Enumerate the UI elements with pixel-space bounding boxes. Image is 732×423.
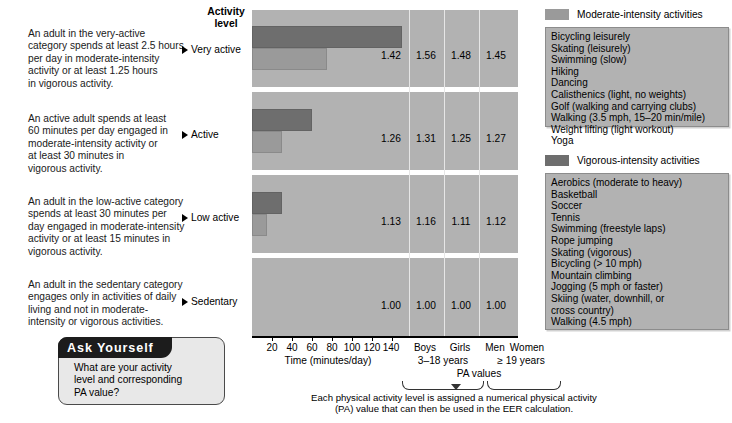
x-axis-tick (352, 337, 353, 341)
pa-value: 1.45 (479, 50, 513, 61)
legend-header-vigorous: Vigorous-intensity activities (545, 155, 700, 166)
triangle-marker-icon (182, 46, 188, 54)
pa-value: 1.00 (444, 300, 478, 311)
description-low-active: An adult in the low-active category spen… (28, 196, 204, 258)
level-text: Sedentary (191, 296, 237, 307)
activity-level-header: Activity level (196, 6, 256, 30)
pa-value: 1.16 (409, 216, 443, 227)
chart-plot-area: 1.42 1.56 1.48 1.45 1.26 1.31 1.25 1.27 … (252, 10, 518, 336)
level-label-sedentary: Sedentary (182, 296, 254, 307)
description-very-active: An adult in the very-active category spe… (28, 28, 204, 90)
legend-list-vigorous: Aerobics (moderate to heavy) Basketball … (545, 173, 729, 330)
x-axis-tick (372, 337, 373, 341)
legend-swatch-vigorous-icon (545, 155, 569, 166)
bar-low-active-moderate (252, 214, 267, 236)
bar-very-active-moderate (252, 48, 327, 70)
bar-active-moderate (252, 131, 282, 153)
pa-group-label-youth: 3–18 years (400, 355, 486, 366)
x-axis-tick (392, 337, 393, 341)
x-axis-tick (332, 337, 333, 341)
level-label-very-active: Very active (182, 44, 254, 55)
pa-value: 1.26 (374, 133, 408, 144)
pa-value: 1.27 (479, 133, 513, 144)
figure-root: An adult in the very-active category spe… (0, 0, 732, 423)
ask-yourself-question: What are your activity level and corresp… (74, 362, 216, 399)
x-axis-tick-label: 140 (378, 342, 404, 353)
pa-value: 1.42 (374, 50, 408, 61)
bracket-adult (487, 381, 561, 390)
ask-yourself-tab: Ask Yourself (58, 337, 172, 358)
legend-header-moderate: Moderate-intensity activities (545, 9, 703, 20)
legend-list-moderate: Bicycling leisurely Skating (leisurely) … (545, 27, 729, 127)
pa-group-label-adult: ≥ 19 years (481, 355, 561, 366)
triangle-marker-icon (182, 298, 188, 306)
pa-value: 1.00 (409, 300, 443, 311)
pa-values-label: PA values (404, 368, 554, 379)
pa-column-header-women: Women (506, 342, 548, 353)
level-text: Low active (191, 212, 239, 223)
pa-value: 1.13 (374, 216, 408, 227)
bar-active-vigorous (252, 109, 312, 131)
x-axis-tick (272, 337, 273, 341)
pa-column-header-boys: Boys (408, 342, 442, 353)
legend-title-moderate: Moderate-intensity activities (577, 9, 703, 20)
pa-value: 1.25 (444, 133, 478, 144)
pa-value: 1.11 (444, 216, 478, 227)
bar-very-active-vigorous (252, 26, 402, 48)
x-axis-title: Time (minutes/day) (252, 355, 404, 366)
x-axis-tick (292, 337, 293, 341)
pa-value: 1.00 (374, 300, 408, 311)
triangle-marker-icon (182, 131, 188, 139)
level-label-low-active: Low active (182, 212, 254, 223)
description-sedentary: An adult in the sedentary category engag… (28, 279, 204, 329)
legend-swatch-moderate-icon (545, 9, 569, 20)
legend-title-vigorous: Vigorous-intensity activities (577, 155, 700, 166)
level-text: Active (191, 129, 219, 140)
figure-caption: Each physical activity level is assigned… (284, 392, 624, 415)
level-label-active: Active (182, 129, 254, 140)
caption-arrow-icon (451, 384, 461, 390)
pa-value: 1.48 (444, 50, 478, 61)
pa-value: 1.56 (409, 50, 443, 61)
x-axis-tick (312, 337, 313, 341)
description-active: An active adult spends at least 60 minut… (28, 113, 204, 175)
pa-value: 1.00 (479, 300, 513, 311)
triangle-marker-icon (182, 214, 188, 222)
bar-low-active-vigorous (252, 192, 282, 214)
bracket-youth (402, 381, 484, 390)
pa-column-header-girls: Girls (443, 342, 477, 353)
pa-value: 1.31 (409, 133, 443, 144)
pa-value: 1.12 (479, 216, 513, 227)
level-text: Very active (191, 44, 241, 55)
